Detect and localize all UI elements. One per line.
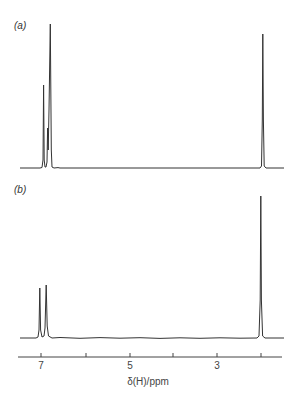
x-axis-label: δ(H)/ppm [127,376,169,387]
spectrum-a [20,24,284,168]
nmr-spectra-plot [0,0,296,403]
tick-label-3: 3 [214,360,220,371]
x-axis [18,353,282,357]
tick-label-5: 5 [127,360,133,371]
spectrum-b [20,196,284,338]
tick-label-7: 7 [38,360,44,371]
